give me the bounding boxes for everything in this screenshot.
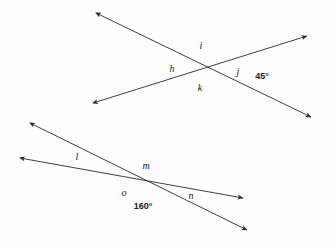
angle-label-j: j bbox=[237, 67, 240, 77]
angle-label-k: k bbox=[198, 83, 202, 93]
upper-line-a bbox=[96, 13, 311, 117]
angle-label-i: i bbox=[200, 41, 203, 51]
angle-label-l: l bbox=[76, 152, 79, 162]
angle-label-o: o bbox=[122, 188, 127, 198]
angle-label-m: m bbox=[142, 161, 149, 171]
upper-figure-lines bbox=[93, 13, 311, 117]
angle-label-h: h bbox=[170, 64, 175, 74]
geometry-figure: i h j k 45° l m n o 160° bbox=[0, 0, 335, 246]
lower-line-d bbox=[20, 158, 243, 198]
geometry-canvas bbox=[0, 0, 335, 246]
angle-label-n: n bbox=[189, 191, 194, 201]
lower-figure-lines bbox=[20, 123, 247, 230]
angle-measure-45: 45° bbox=[255, 72, 269, 81]
lower-line-c bbox=[30, 123, 247, 230]
angle-measure-160: 160° bbox=[134, 202, 153, 211]
